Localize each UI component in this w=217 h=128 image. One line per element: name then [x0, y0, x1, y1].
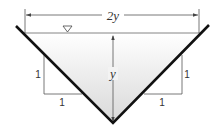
water-surface-icon	[63, 26, 72, 32]
depth-label: y	[108, 66, 116, 81]
top-width-label: 2y	[107, 8, 120, 23]
right-slope-run-label: 1	[159, 97, 165, 108]
left-slope-run-label: 1	[59, 97, 65, 108]
right-slope-rise-label: 1	[184, 69, 190, 80]
left-slope-rise-label: 1	[35, 69, 41, 80]
channel-diagram: 2y y 1 1 1 1	[0, 0, 217, 128]
arrowhead-right-icon	[193, 13, 198, 17]
arrowhead-left-icon	[26, 13, 31, 17]
